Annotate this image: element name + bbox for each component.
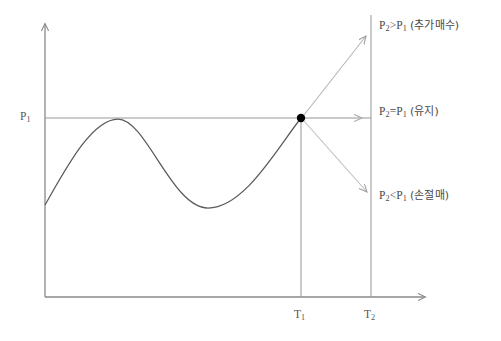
y-axis-label-subscript: 1 xyxy=(26,115,30,124)
stop-loss-p1-subscript: 1 xyxy=(403,194,407,203)
x-tick-t1-subscript: 1 xyxy=(301,313,305,322)
stop-loss-action-text: (손절매) xyxy=(410,189,449,202)
branch-line-stop-loss xyxy=(304,121,367,192)
x-tick-t1-base: T xyxy=(294,308,301,320)
decision-point xyxy=(297,114,305,122)
y-axis-label-p1: P1 xyxy=(20,110,31,122)
buy-more-p2-subscript: 2 xyxy=(386,24,390,33)
hold-action-text: (유지) xyxy=(410,105,439,118)
branch-label-hold: P2=P1 (유지) xyxy=(379,105,439,118)
diagram-canvas xyxy=(0,0,501,341)
stop-loss-p2-base: P xyxy=(379,189,386,201)
stop-loss-p2-subscript: 2 xyxy=(386,194,390,203)
x-tick-label-t2: T2 xyxy=(364,308,375,320)
buy-more-p1-base: P xyxy=(396,19,403,31)
buy-more-p1-subscript: 1 xyxy=(403,24,407,33)
x-tick-t2-base: T xyxy=(364,308,371,320)
branch-label-buy-more: P2>P1 (추가매수) xyxy=(379,19,459,32)
hold-p2-base: P xyxy=(379,105,386,117)
hold-p1-base: P xyxy=(396,105,403,117)
branch-line-buy-more xyxy=(304,36,366,115)
buy-more-action-text: (추가매수) xyxy=(410,19,459,32)
x-tick-t2-subscript: 2 xyxy=(371,313,375,322)
branch-label-stop-loss: P2<P1 (손절매) xyxy=(379,189,449,202)
price-curve xyxy=(45,118,301,208)
hold-p1-subscript: 1 xyxy=(403,110,407,119)
buy-more-p2-base: P xyxy=(379,19,386,31)
x-tick-label-t1: T1 xyxy=(294,308,305,320)
stop-loss-p1-base: P xyxy=(396,189,403,201)
price-decision-diagram: P1 T1 T2 P2>P1 (추가매수) P2=P1 (유지) P2<P1 (… xyxy=(0,0,501,341)
hold-p2-subscript: 2 xyxy=(386,110,390,119)
